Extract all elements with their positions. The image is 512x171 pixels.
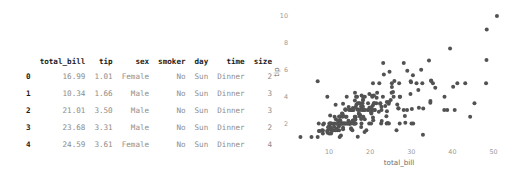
scatter-point [455, 81, 459, 85]
scatter-point [345, 122, 349, 126]
scatter-point [370, 95, 374, 99]
scatter-point [448, 47, 452, 51]
column-header-total-bill: total_bill [31, 47, 86, 68]
scatter-point [388, 70, 392, 74]
scatter-point [354, 95, 358, 99]
scatter-point [417, 106, 421, 110]
scatter-point [427, 58, 431, 62]
cell-time: Dinner [208, 137, 244, 154]
x-axis-tick-labels: 1020304050 [325, 148, 498, 156]
scatter-point [325, 95, 329, 99]
scatter-point [419, 68, 423, 72]
scatter-point [371, 81, 375, 85]
scatter-point [484, 58, 488, 62]
x-tick-30: 30 [407, 148, 415, 156]
cell-time: Dinner [208, 85, 244, 102]
scatter-point [341, 102, 345, 106]
scatter-plot-svg: 246810 1020304050 total_bill tip [272, 0, 512, 171]
scatter-point [392, 79, 396, 83]
scatter-point [420, 81, 424, 85]
scatter-point [358, 108, 362, 112]
scatter-plot-figure: 246810 1020304050 total_bill tip [272, 0, 512, 171]
cell-day: Sun [186, 137, 209, 154]
cell-total-bill: 24.59 [31, 137, 86, 154]
scatter-point [495, 14, 499, 18]
cell-sex: Male [113, 85, 149, 102]
dataframe-output: total_bill tip sex smoker day time size … [0, 0, 272, 171]
scatter-point [383, 104, 387, 108]
scatter-point [468, 115, 472, 119]
x-tick-40: 40 [448, 148, 456, 156]
cell-day: Sun [186, 120, 209, 137]
scatter-point [359, 125, 363, 129]
cell-total-bill: 23.68 [31, 120, 86, 137]
scatter-point [350, 121, 354, 125]
cell-total-bill: 16.99 [31, 68, 86, 85]
x-tick-20: 20 [366, 148, 374, 156]
scatter-point [343, 108, 347, 112]
cell-size: 2 [245, 68, 272, 85]
scatter-point [336, 119, 340, 123]
scatter-point [409, 79, 413, 83]
y-tick-2: 2 [284, 120, 288, 128]
scatter-point [453, 108, 457, 112]
scatter-point [390, 85, 394, 89]
scatter-point [395, 103, 399, 107]
cell-tip: 3.61 [85, 137, 112, 154]
scatter-point [472, 101, 476, 105]
cell-tip: 3.50 [85, 102, 112, 119]
column-header-size: size [245, 47, 272, 68]
scatter-point [371, 118, 375, 122]
y-tick-8: 8 [284, 39, 288, 47]
scatter-point [330, 129, 334, 133]
scatter-point [402, 61, 406, 65]
scatter-point [316, 135, 320, 139]
scatter-point [318, 129, 322, 133]
scatter-point [356, 135, 360, 139]
column-header-sex: sex [113, 47, 149, 68]
cell-sex: Male [113, 120, 149, 137]
cell-smoker: No [149, 102, 185, 119]
scatter-point [372, 101, 376, 105]
cell-sex: Male [113, 102, 149, 119]
cell-smoker: No [149, 137, 185, 154]
scatter-point [350, 108, 354, 112]
cell-time: Dinner [208, 102, 244, 119]
dataframe-header: total_bill tip sex smoker day time size [26, 47, 272, 68]
scatter-point [382, 72, 386, 76]
cell-size: 4 [245, 137, 272, 154]
column-header-day: day [186, 47, 209, 68]
scatter-point [396, 106, 400, 110]
scatter-point [403, 121, 407, 125]
scatter-point [402, 108, 406, 112]
scatter-point [390, 91, 394, 95]
cell-size: 3 [245, 102, 272, 119]
cell-day: Sun [186, 85, 209, 102]
scatter-point [370, 108, 374, 112]
scatter-point [327, 132, 331, 136]
scatter-point [363, 95, 367, 99]
column-header-tip: tip [85, 47, 112, 68]
scatter-point [395, 128, 399, 132]
scatter-point [411, 73, 415, 77]
cell-time: Dinner [208, 120, 244, 137]
table-row: 4 24.59 3.61 Female No Sun Dinner 4 [26, 137, 272, 154]
scatter-point [363, 130, 367, 134]
scatter-point [361, 101, 365, 105]
scatter-point [415, 81, 419, 85]
scatter-point [321, 123, 325, 127]
scatter-point [317, 122, 321, 126]
scatter-point [377, 110, 381, 114]
scatter-point [334, 128, 338, 132]
scatter-point [443, 95, 447, 99]
scatter-point [384, 114, 388, 118]
scatter-point [298, 135, 302, 139]
scatter-point [328, 113, 332, 117]
x-axis-title: total_bill [384, 158, 415, 167]
scatter-point [484, 81, 488, 85]
scatter-point [378, 102, 382, 106]
scatter-point [379, 122, 383, 126]
column-header-time: time [208, 47, 244, 68]
cell-time: Dinner [208, 68, 244, 85]
scatter-point [316, 79, 320, 83]
